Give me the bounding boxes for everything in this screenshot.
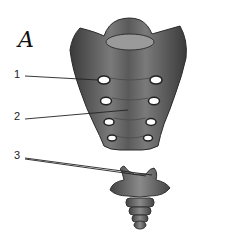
sacrum-coccyx-illustration — [0, 0, 249, 242]
sacral-promontory — [106, 34, 154, 50]
